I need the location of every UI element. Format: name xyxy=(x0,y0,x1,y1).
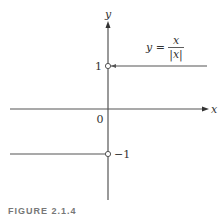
equation-lhs: y = xyxy=(145,41,165,54)
origin-label: 0 xyxy=(97,113,104,126)
figure-caption: FIGURE 2.1.4 xyxy=(8,206,77,214)
open-circle-negative-icon xyxy=(105,151,110,156)
tick-label-y-1: 1 xyxy=(95,60,102,73)
equation-numerator: x xyxy=(173,34,180,47)
y-axis-label: y xyxy=(104,8,112,21)
graph-canvas: y x 1 −1 0 y = x |x| xyxy=(0,0,223,214)
equation-denominator: |x| xyxy=(169,48,183,62)
open-circle-positive-icon xyxy=(105,63,110,68)
signum-function-graph: y x 1 −1 0 y = x |x| FIGURE 2.1.4 xyxy=(0,0,223,214)
x-axis-arrow-icon xyxy=(202,107,209,112)
x-axis-label: x xyxy=(211,103,218,116)
y-axis-arrow-icon xyxy=(106,21,111,28)
branch-positive-arrow-icon xyxy=(111,64,116,68)
equation-label: y = x |x| xyxy=(145,34,184,62)
tick-label-y-neg1: −1 xyxy=(114,148,130,161)
